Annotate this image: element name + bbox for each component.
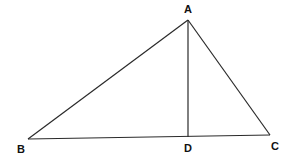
vertex-label-a: A: [184, 3, 192, 15]
triangle-diagram: A B C D: [0, 0, 292, 161]
vertex-label-c: C: [271, 140, 279, 152]
segment-ab: [28, 20, 188, 139]
segment-ac: [188, 20, 270, 135]
segment-bc: [28, 135, 270, 139]
point-label-d: D: [184, 142, 192, 154]
vertex-label-b: B: [17, 143, 25, 155]
